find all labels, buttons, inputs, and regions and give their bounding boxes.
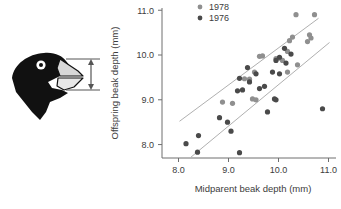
data-point-1976[interactable] (262, 84, 267, 89)
data-point-1976[interactable] (282, 46, 287, 51)
legend-marker-1978 (198, 5, 203, 10)
data-point-1976[interactable] (270, 69, 275, 74)
data-point-1978[interactable] (253, 97, 258, 102)
x-tick-label: 10.0 (270, 165, 288, 175)
data-point-1976[interactable] (288, 52, 293, 57)
data-point-1978[interactable] (285, 69, 290, 74)
data-point-1976[interactable] (273, 97, 278, 102)
data-point-1976[interactable] (195, 150, 200, 155)
measure-arrow-head-down (88, 84, 94, 90)
data-point-1978[interactable] (242, 76, 247, 81)
legend-label-1978[interactable]: 1978 (209, 2, 229, 12)
finch-head-illustration (0, 40, 108, 145)
finch-beak-lower (57, 78, 83, 90)
data-point-1978[interactable] (312, 12, 317, 17)
data-point-1976[interactable] (217, 115, 222, 120)
data-point-1976[interactable] (235, 88, 240, 93)
measure-arrow-head-up (88, 59, 94, 65)
data-point-1978[interactable] (305, 39, 310, 44)
data-point-1976[interactable] (253, 71, 258, 76)
y-axis-title: Offspring beak depth (mm) (109, 27, 120, 140)
data-point-1976[interactable] (265, 109, 270, 114)
data-point-1978[interactable] (290, 35, 295, 40)
1978-regression (180, 18, 319, 121)
legend-marker-1976 (198, 16, 203, 21)
data-point-1978[interactable] (295, 62, 300, 67)
data-point-1976[interactable] (245, 65, 250, 70)
x-tick-label: 9.0 (222, 165, 235, 175)
y-tick-label: 10.0 (136, 50, 154, 60)
data-point-1978[interactable] (220, 99, 225, 104)
y-tick-label: 9.0 (141, 95, 154, 105)
data-point-1976[interactable] (257, 86, 262, 91)
data-point-1978[interactable] (293, 12, 298, 17)
data-point-1976[interactable] (183, 141, 188, 146)
legend-label-1976[interactable]: 1976 (209, 13, 229, 23)
data-point-1976[interactable] (320, 106, 325, 111)
y-tick-label: 11.0 (137, 6, 154, 16)
y-tick-label: 8.0 (141, 140, 154, 150)
data-point-1976[interactable] (237, 76, 242, 81)
data-point-1976[interactable] (247, 79, 252, 84)
data-point-1976[interactable] (196, 133, 201, 138)
data-point-1976[interactable] (277, 71, 282, 76)
x-tick-label: 11.0 (320, 165, 337, 175)
x-tick-label: 8.0 (172, 165, 185, 175)
data-point-1976[interactable] (237, 150, 242, 155)
data-point-1976[interactable] (283, 60, 288, 65)
x-axis-title: Midparent beak depth (mm) (195, 183, 312, 194)
data-point-1978[interactable] (260, 53, 265, 58)
scatter-chart: 8.09.010.011.08.09.010.011.0Midparent be… (104, 0, 341, 209)
figure-panel: 8.09.010.011.08.09.010.011.0Midparent be… (0, 0, 341, 209)
data-point-1978[interactable] (230, 101, 235, 106)
finch-eye-pupil (39, 63, 43, 67)
data-point-1976[interactable] (225, 120, 230, 125)
finch-beak-upper (57, 59, 83, 76)
data-point-1976[interactable] (240, 87, 245, 92)
data-point-1976[interactable] (273, 58, 278, 63)
1976-regression (191, 42, 330, 157)
data-point-1976[interactable] (228, 129, 233, 134)
